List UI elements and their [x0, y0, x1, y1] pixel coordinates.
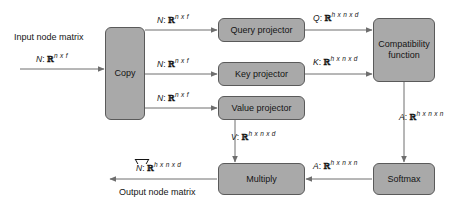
node-multiply[interactable]: Multiply [218, 163, 305, 195]
edge-label-copy-out-3-exponent: n x f [175, 91, 189, 98]
edge-label-input-matrix-colon: : [42, 54, 44, 64]
edge-label-key-out-colon: : [319, 57, 321, 67]
node-compatibility-function-label-line1: Compatibility [378, 39, 430, 50]
output-node-matrix-title: Output node matrix [119, 187, 196, 198]
node-key-projector-label: Key projector [235, 69, 288, 80]
node-value-projector-label: Value projector [232, 103, 292, 114]
node-copy[interactable]: Copy [105, 27, 145, 120]
edge-label-input-matrix: N: ℝn x f [36, 51, 68, 64]
edge-label-softmax-out-set: ℝ [323, 161, 330, 171]
edge-label-value-out-exponent: h x n x d [249, 130, 276, 137]
edge-label-copy-out-1-colon: : [163, 15, 165, 25]
edge-label-query-out-symbol: Q [313, 13, 320, 23]
edge-label-output-matrix-colon: : [142, 163, 144, 173]
edge-label-copy-out-3-set: ℝ [168, 93, 175, 103]
node-query-projector[interactable]: Query projector [218, 18, 305, 42]
edge-label-query-out-colon: : [320, 13, 322, 23]
edge-label-softmax-out-exponent: h x n x n [331, 159, 358, 166]
edge-label-copy-out-2: N: ℝn x f [157, 56, 189, 69]
edge-label-compat-out-colon: : [405, 112, 407, 122]
edge-label-copy-out-2-colon: : [163, 59, 165, 69]
edge-label-key-out: K: ℝh x n x d [313, 54, 358, 67]
edge-label-key-out-exponent: h x n x d [331, 55, 358, 62]
edge-label-compat-out-exponent: h x n x n [417, 110, 444, 117]
edge-label-query-out: Q: ℝh x n x d [313, 10, 359, 23]
node-value-projector[interactable]: Value projector [218, 96, 305, 120]
node-key-projector[interactable]: Key projector [218, 62, 305, 86]
edge-label-copy-out-1-exponent: n x f [175, 13, 189, 20]
node-copy-label: Copy [114, 68, 135, 79]
edge-label-output-matrix-symbol: N [136, 163, 142, 173]
edge-label-copy-out-3-colon: : [163, 93, 165, 103]
node-softmax-label: Softmax [387, 174, 420, 185]
edge-label-softmax-out-colon: : [319, 161, 321, 171]
edge-label-value-out-colon: : [237, 132, 239, 142]
edge-label-value-out-set: ℝ [241, 132, 248, 142]
edge-label-copy-out-2-exponent: n x f [175, 57, 189, 64]
edge-label-compat-out-set: ℝ [409, 112, 416, 122]
edge-label-output-matrix-set: ℝ [147, 163, 154, 173]
edge-label-compat-out: A: ℝh x n x n [399, 109, 444, 122]
edge-label-value-out: V: ℝh x n x d [231, 129, 276, 142]
edge-label-copy-out-2-set: ℝ [168, 59, 175, 69]
node-multiply-label: Multiply [246, 174, 277, 185]
edge-label-output-matrix: N: ℝh x n x d [136, 160, 181, 173]
edge-label-key-out-set: ℝ [323, 57, 330, 67]
edge-label-output-matrix-exponent: h x n x d [154, 161, 181, 168]
edge-label-copy-out-3: N: ℝn x f [157, 90, 189, 103]
node-compatibility-function[interactable]: Compatibility function [373, 18, 435, 82]
edge-label-input-matrix-set: ℝ [47, 54, 54, 64]
node-softmax[interactable]: Softmax [373, 163, 435, 195]
node-query-projector-label: Query projector [230, 25, 292, 36]
edge-label-input-matrix-exponent: n x f [54, 52, 68, 59]
node-compatibility-function-label-line2: function [378, 50, 430, 61]
edge-label-copy-out-1: N: ℝn x f [157, 12, 189, 25]
edge-label-query-out-exponent: h x n x d [331, 11, 358, 18]
edge-label-softmax-out: A: ℝh x n x n [313, 158, 358, 171]
edge-label-copy-out-1-set: ℝ [168, 15, 175, 25]
input-node-matrix-title: Input node matrix [14, 32, 84, 43]
